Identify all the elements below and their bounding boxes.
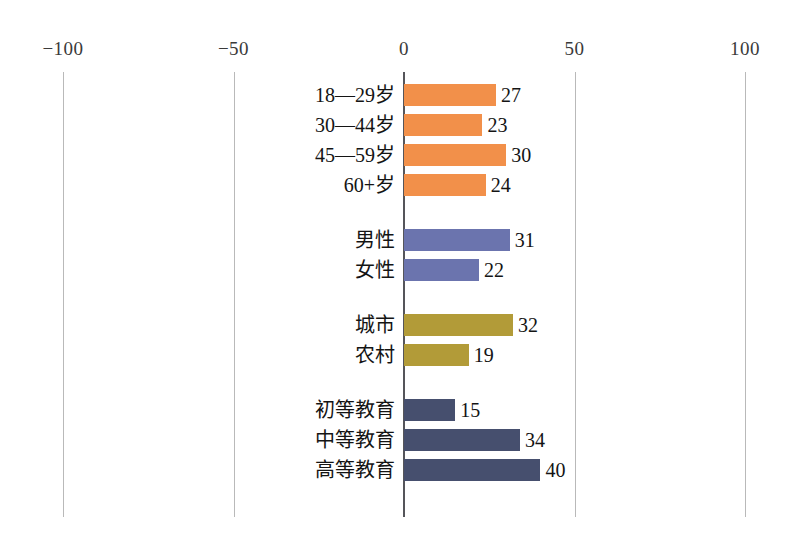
bar [404,429,520,451]
bar [404,114,482,136]
bar-row: 60+岁24 [0,174,801,196]
bar-value-label: 34 [520,429,545,451]
bar-row: 女性22 [0,259,801,281]
bar [404,229,510,251]
bar [404,259,479,281]
bar-row: 中等教育34 [0,429,801,451]
bar-row: 45—59岁30 [0,144,801,166]
bar-value-label: 19 [469,344,494,366]
bar [404,174,486,196]
bar-row: 30—44岁23 [0,114,801,136]
bar-value-label: 23 [482,114,507,136]
bar-row: 18—29岁27 [0,84,801,106]
bar [404,459,540,481]
bar [404,84,496,106]
bar-value-label: 30 [506,144,531,166]
bar [404,399,455,421]
plot-area: 18—29岁2730—44岁2345—59岁3060+岁24男性31女性22城市… [0,0,801,560]
bar-row: 城市32 [0,314,801,336]
bar [404,314,513,336]
bar-value-label: 27 [496,84,521,106]
bar [404,344,469,366]
bar-category-label: 男性 [355,229,404,251]
bar-value-label: 15 [455,399,480,421]
bar-category-label: 30—44岁 [315,114,404,136]
bar-value-label: 22 [479,259,504,281]
bar-row: 初等教育15 [0,399,801,421]
bar-category-label: 45—59岁 [315,144,404,166]
bar-category-label: 中等教育 [315,429,404,451]
bar-category-label: 初等教育 [315,399,404,421]
bar-value-label: 24 [486,174,511,196]
bar-category-label: 高等教育 [315,459,404,481]
bar-value-label: 31 [510,229,535,251]
bar [404,144,506,166]
bar-row: 农村19 [0,344,801,366]
bar-category-label: 女性 [355,259,404,281]
bar-category-label: 18—29岁 [315,84,404,106]
bar-category-label: 60+岁 [344,174,404,196]
bar-category-label: 农村 [355,344,404,366]
bar-value-label: 32 [513,314,538,336]
bar-row: 男性31 [0,229,801,251]
bar-category-label: 城市 [355,314,404,336]
bar-row: 高等教育40 [0,459,801,481]
bar-value-label: 40 [540,459,565,481]
bar-chart: −100−50050100 18—29岁2730—44岁2345—59岁3060… [0,0,801,560]
